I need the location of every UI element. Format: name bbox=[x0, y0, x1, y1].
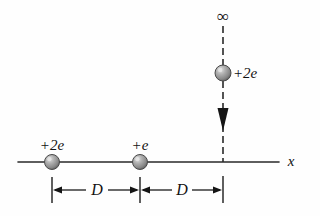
charge-sphere-middle bbox=[133, 155, 148, 170]
charge-label-middle: +e bbox=[132, 138, 149, 153]
charge-sphere-left bbox=[45, 155, 60, 170]
axis-label-x: x bbox=[288, 154, 295, 169]
trajectory-arrowhead bbox=[218, 108, 229, 131]
charge-label-left: +2e bbox=[40, 138, 64, 153]
infinity-symbol: ∞ bbox=[217, 8, 229, 25]
charge-label-moving: +2e bbox=[233, 66, 257, 81]
dimension-label-right: D bbox=[176, 182, 188, 198]
charge-sphere-moving bbox=[215, 65, 231, 81]
physics-charge-diagram: ∞ +2e +e +2e D D x bbox=[0, 0, 320, 216]
dimension-label-left: D bbox=[91, 182, 103, 198]
diagram-canvas bbox=[0, 0, 320, 216]
